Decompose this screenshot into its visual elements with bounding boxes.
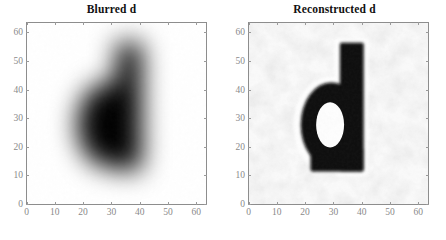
xtick-label: 10 <box>50 207 60 217</box>
ytick-label: 30 <box>14 113 24 123</box>
xtick-label: 50 <box>385 207 395 217</box>
xtick-label: 60 <box>192 207 202 217</box>
ytick-label: 30 <box>236 113 246 123</box>
ytick-label: 50 <box>14 56 24 66</box>
xtick-label: 40 <box>135 207 145 217</box>
xtick-label: 0 <box>246 207 251 217</box>
panel-blurred: Blurred d <box>0 0 223 240</box>
ytick-label: 60 <box>14 27 24 37</box>
xtick-label: 30 <box>107 207 117 217</box>
ytick-label: 10 <box>236 170 246 180</box>
ytick-label: 10 <box>14 170 24 180</box>
xtick-label: 20 <box>300 207 310 217</box>
xtick-label: 50 <box>163 207 173 217</box>
panel-title-reconstructed: Reconstructed d <box>223 3 446 15</box>
axis-layer-reconstructed: 0 10 20 30 40 50 60 0 10 20 30 40 50 60 <box>248 22 429 205</box>
panel-reconstructed: Reconstructed d <box>223 0 446 240</box>
ytick-label: 40 <box>14 85 24 95</box>
xtick-label: 0 <box>24 207 29 217</box>
xtick-label: 40 <box>357 207 367 217</box>
ytick-label: 0 <box>18 199 23 209</box>
panel-title-blurred: Blurred d <box>0 3 223 15</box>
ytick-label: 50 <box>236 56 246 66</box>
figure-root: Blurred d <box>0 0 446 240</box>
xtick-label: 10 <box>272 207 282 217</box>
xtick-label: 60 <box>414 207 424 217</box>
ytick-label: 60 <box>236 27 246 37</box>
ytick-label: 20 <box>14 142 24 152</box>
xtick-label: 30 <box>329 207 339 217</box>
axis-layer-blurred: 0 10 20 30 40 50 60 0 10 20 30 40 50 60 <box>26 22 207 205</box>
ytick-label: 0 <box>240 199 245 209</box>
ytick-label: 40 <box>236 85 246 95</box>
ytick-label: 20 <box>236 142 246 152</box>
xtick-label: 20 <box>78 207 88 217</box>
